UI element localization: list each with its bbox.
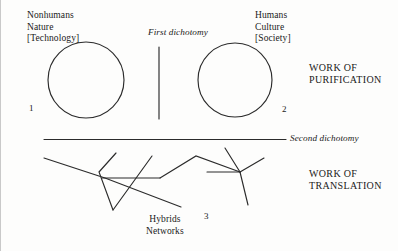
hybrid-line-mid-bridge bbox=[160, 156, 240, 178]
hybrids-networks-label: Hybrids Networks bbox=[146, 214, 184, 237]
second-dichotomy-label: Second dichotomy bbox=[290, 133, 359, 145]
nature-pole-circle bbox=[48, 42, 124, 118]
marker-three: 3 bbox=[204, 211, 209, 223]
culture-pole-circle bbox=[198, 43, 272, 117]
culture-pole-label: Humans Culture [Society] bbox=[255, 10, 291, 45]
hybrid-line-right-branch bbox=[240, 158, 264, 172]
work-of-translation-label: WORK OF TRANSLATION bbox=[309, 168, 382, 193]
hybrid-line-right-lower bbox=[240, 172, 248, 205]
first-dichotomy-label: First dichotomy bbox=[148, 27, 208, 39]
marker-one: 1 bbox=[29, 103, 34, 115]
hybrid-line-long-diagonal bbox=[44, 158, 181, 207]
marker-two: 2 bbox=[282, 104, 287, 116]
nature-pole-label: Nonhumans Nature [Technology] bbox=[27, 10, 79, 45]
work-of-purification-label: WORK OF PURIFICATION bbox=[309, 62, 382, 87]
diagram-canvas: Nonhumans Nature [Technology] Humans Cul… bbox=[0, 0, 398, 251]
hybrid-line-right-upper bbox=[225, 148, 240, 172]
